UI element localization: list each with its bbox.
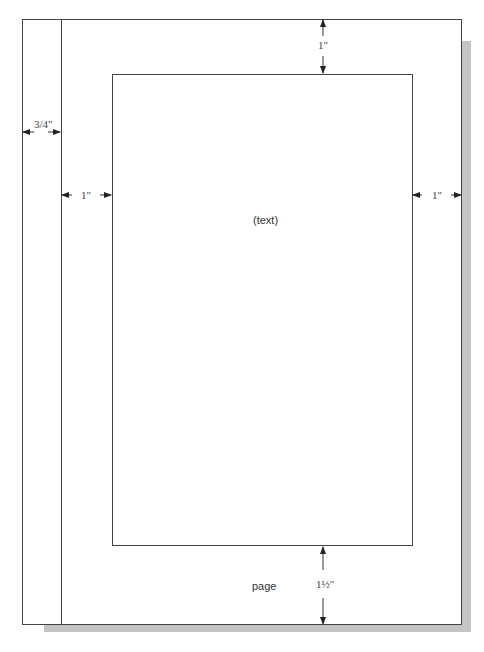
bottom-margin-label: 1½" xyxy=(316,578,334,590)
dimension-arrows xyxy=(0,0,484,652)
text-area-label: (text) xyxy=(253,214,278,226)
page-label: page xyxy=(252,580,276,592)
right-margin-label: 1" xyxy=(432,189,442,201)
left-margin-label: 1" xyxy=(81,189,91,201)
top-margin-label: 1" xyxy=(318,39,328,51)
binding-label: 3/4" xyxy=(34,118,53,130)
